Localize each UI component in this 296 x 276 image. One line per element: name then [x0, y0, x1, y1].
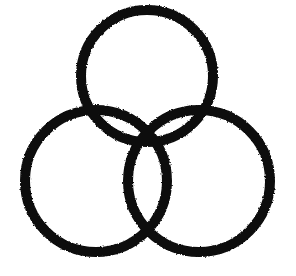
three-rings-figure: Three Interlocking Rings A hand-drawn em…: [0, 0, 296, 276]
figure-canvas: Three Interlocking Rings A hand-drawn em…: [0, 0, 296, 276]
